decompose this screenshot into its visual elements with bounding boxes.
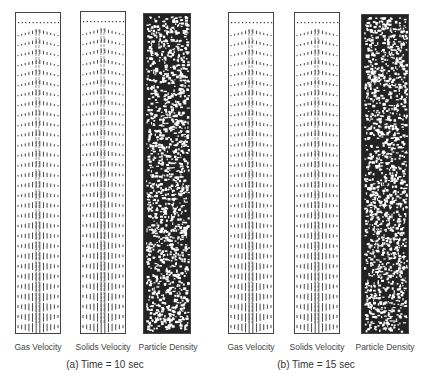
caption-b: (b) Time = 15 sec [277, 359, 355, 370]
solids-velocity-label-b: Solids Velocity [290, 342, 345, 352]
solids-velocity-label-a: Solids Velocity [76, 342, 131, 352]
vector-field-icon [295, 13, 339, 333]
density-noise-icon [362, 15, 408, 333]
gas-velocity-label-a: Gas Velocity [14, 342, 61, 352]
vector-field-icon [229, 13, 273, 333]
particle-density-panel-a [143, 13, 191, 334]
solids-velocity-panel-a [80, 11, 126, 334]
gas-velocity-panel-a [15, 12, 61, 334]
gas-velocity-label-b: Gas Velocity [227, 342, 274, 352]
vector-field-icon [81, 12, 125, 333]
vector-field-icon [16, 13, 60, 333]
density-noise-icon [144, 14, 190, 333]
gas-velocity-panel-b [228, 12, 274, 334]
particle-density-label-a: Particle Density [138, 342, 197, 352]
particle-density-label-b: Particle Density [355, 342, 414, 352]
solids-velocity-panel-b [294, 12, 340, 334]
caption-a: (a) Time = 10 sec [66, 359, 144, 370]
particle-density-panel-b [361, 14, 409, 334]
